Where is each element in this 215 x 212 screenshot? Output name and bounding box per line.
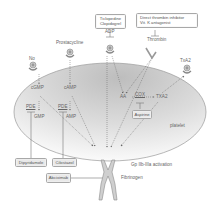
pde-label-2: PDE xyxy=(58,105,67,110)
cox-label: COX xyxy=(135,93,145,98)
vit-k-antagonist-label: Vit. K antagonist xyxy=(140,20,196,25)
camp-label: cAMP xyxy=(64,86,76,91)
aspirine-label: Aspirine xyxy=(134,112,150,117)
abciximab-box[interactable]: Abciximab xyxy=(46,173,71,183)
receptor-icon-thrombin xyxy=(146,48,156,58)
fibrinogen-label: Fibrinogen xyxy=(121,176,143,181)
dipyridamole-box[interactable]: Dipyridamole xyxy=(15,158,47,167)
txa2-label: TXA2 xyxy=(156,95,168,100)
fibrinogen-structure xyxy=(99,160,117,200)
aa-label: AA xyxy=(120,95,126,100)
dipyridamole-label: Dipyridamole xyxy=(17,160,45,165)
thrombin-label: Thrombin xyxy=(147,38,166,43)
aspirine-box[interactable]: Aspirine xyxy=(132,110,152,119)
prostacycline-label: Prostacycline xyxy=(56,41,83,46)
ticlopidine-clopidogrel-box[interactable]: Ticlopedine Clopidogrel xyxy=(95,14,126,29)
gmp-label: GMP xyxy=(34,115,44,120)
platelet-label: platelet xyxy=(170,124,185,129)
amp-label: AMP xyxy=(66,115,76,120)
receptor-icon-adp xyxy=(106,45,114,53)
clopidogrel-label: Clopidogrel xyxy=(97,21,124,26)
receptor-icon-prostacycline xyxy=(66,49,74,57)
pde-label-1: PDE xyxy=(26,105,35,110)
abciximab-label: Abciximab xyxy=(48,175,69,180)
no-label: No xyxy=(29,57,35,62)
gp-activation-label: Gp IIb-IIIa activation xyxy=(131,163,172,168)
adp-label: ADP xyxy=(105,30,114,35)
cilostazol-label: Cilostazol xyxy=(54,160,75,165)
cgmp-label: cGMP xyxy=(31,86,44,91)
txa2-receptor-label: TxA2 xyxy=(180,59,191,64)
receptor-icon-txa2 xyxy=(183,65,191,73)
cilostazol-box[interactable]: Cilostazol xyxy=(52,158,77,167)
receptor-icon-no xyxy=(29,62,37,70)
thrombin-inhibitor-box[interactable]: Direct thrombin inhibitor Vit. K antagon… xyxy=(136,13,198,28)
platelet-cell xyxy=(14,63,206,161)
